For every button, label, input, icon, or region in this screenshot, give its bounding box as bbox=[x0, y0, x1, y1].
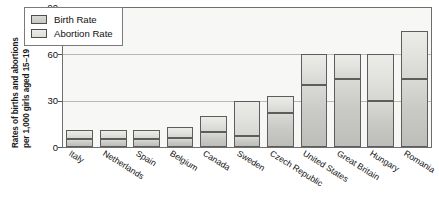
bar-netherlands bbox=[100, 130, 127, 147]
bar-canada bbox=[200, 116, 227, 147]
bar-segment-birth-rate bbox=[100, 139, 127, 147]
y-axis-title-line1: Rates of births and abortions bbox=[10, 37, 21, 148]
legend-label-abortion-rate: Abortion Rate bbox=[54, 29, 113, 39]
legend-item-birth-rate: Birth Rate bbox=[31, 13, 113, 26]
bar-segment-birth-rate bbox=[200, 132, 227, 147]
bar-segment-birth-rate bbox=[234, 136, 261, 147]
bar-segment-birth-rate bbox=[401, 79, 428, 147]
bar-segment-abortion-rate bbox=[234, 101, 261, 137]
x-label-canada: Canada bbox=[201, 149, 231, 173]
y-tick-30: 30 bbox=[34, 96, 58, 106]
bar-segment-birth-rate bbox=[133, 139, 160, 147]
bar-segment-abortion-rate bbox=[100, 130, 127, 139]
y-tick-60: 60 bbox=[34, 50, 58, 60]
tick-60 bbox=[58, 54, 62, 55]
bar-segment-birth-rate bbox=[367, 101, 394, 147]
bar-segment-abortion-rate bbox=[167, 127, 194, 138]
bar-great-britain bbox=[334, 54, 361, 147]
x-label-belgium: Belgium bbox=[168, 149, 199, 173]
tick-30 bbox=[58, 101, 62, 102]
bar-romania bbox=[401, 31, 428, 147]
bar-segment-birth-rate bbox=[66, 139, 93, 147]
legend-item-abortion-rate: Abortion Rate bbox=[31, 27, 113, 40]
bar-segment-birth-rate bbox=[301, 85, 328, 147]
legend-label-birth-rate: Birth Rate bbox=[54, 15, 97, 25]
abortion-rate-swatch-icon bbox=[31, 29, 47, 38]
bar-segment-birth-rate bbox=[334, 79, 361, 147]
bar-italy bbox=[66, 130, 93, 147]
bar-united-states bbox=[301, 54, 328, 147]
bar-segment-abortion-rate bbox=[133, 130, 160, 139]
bar-belgium bbox=[167, 127, 194, 147]
bar-segment-abortion-rate bbox=[200, 116, 227, 131]
bar-segment-birth-rate bbox=[167, 138, 194, 147]
x-label-sweden: Sweden bbox=[235, 149, 266, 173]
x-label-spain: Spain bbox=[134, 149, 157, 168]
bar-segment-abortion-rate bbox=[66, 130, 93, 139]
bar-sweden bbox=[234, 101, 261, 147]
birth-rate-swatch-icon bbox=[31, 15, 47, 24]
bar-hungary bbox=[367, 54, 394, 147]
tick-0 bbox=[58, 147, 62, 148]
y-tick-0: 0 bbox=[34, 143, 58, 153]
y-axis-title-line2: per 1,000 girls aged 15–19 bbox=[21, 49, 32, 148]
bar-segment-abortion-rate bbox=[367, 54, 394, 100]
x-label-italy: Italy bbox=[68, 149, 86, 165]
bar-segment-abortion-rate bbox=[401, 31, 428, 79]
bar-spain bbox=[133, 130, 160, 147]
chart-container: Rates of births and abortions per 1,000 … bbox=[0, 0, 439, 219]
bar-segment-abortion-rate bbox=[334, 54, 361, 79]
x-label-romania: Romania bbox=[402, 149, 436, 175]
legend: Birth Rate Abortion Rate bbox=[24, 7, 123, 46]
bar-segment-birth-rate bbox=[267, 113, 294, 147]
bar-segment-abortion-rate bbox=[267, 96, 294, 113]
bar-czech-republic bbox=[267, 96, 294, 147]
x-axis-tick-labels: ItalyNetherlandsSpainBelgiumCanadaSweden… bbox=[62, 149, 432, 219]
bar-segment-abortion-rate bbox=[301, 54, 328, 85]
